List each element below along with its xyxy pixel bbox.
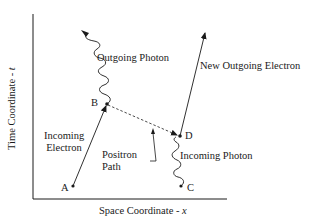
outgoing-photon-arrowhead xyxy=(81,30,89,37)
point-c-label: C xyxy=(187,182,194,194)
point-a-label: A xyxy=(61,182,69,194)
outgoing-photon-label: Outgoing Photon xyxy=(97,52,169,64)
incoming-electron-label-line2: Electron xyxy=(44,142,84,154)
new-outgoing-electron-line xyxy=(180,33,205,136)
x-axis-label: Space Coordinate - x xyxy=(99,205,187,216)
point-b-label: B xyxy=(91,97,98,109)
point-a-dot xyxy=(71,184,74,187)
point-d-dot xyxy=(178,134,182,138)
point-d-label: D xyxy=(185,130,193,142)
positron-leader-line xyxy=(150,133,156,161)
incoming-photon-label: Incoming Photon xyxy=(180,150,253,162)
positron-path-line xyxy=(108,105,177,135)
incoming-electron-label: Incoming Electron xyxy=(44,130,84,154)
point-c-dot xyxy=(179,184,182,187)
positron-path-label-line1: Positron xyxy=(102,149,137,161)
positron-path-label-line2: Path xyxy=(102,161,137,173)
outgoing-photon-wave xyxy=(85,34,110,104)
positron-path-label: Positron Path xyxy=(102,149,137,173)
diagram-canvas xyxy=(0,0,312,224)
new-outgoing-electron-label: New Outgoing Electron xyxy=(200,60,300,72)
y-axis-label: Time Coordinate - t xyxy=(6,67,17,150)
point-b-dot xyxy=(105,102,109,106)
positron-leader-arrowhead xyxy=(151,128,155,134)
incoming-electron-label-line1: Incoming xyxy=(44,130,84,142)
